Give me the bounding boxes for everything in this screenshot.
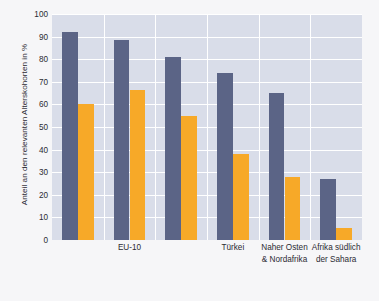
bar-series-1-cat-3 — [217, 73, 233, 240]
y-axis-tick-label: 90 — [18, 32, 48, 41]
bar-series-2-cat-4 — [285, 177, 301, 240]
x-axis-category-label: EU-10 — [118, 242, 141, 254]
x-axis-category-label: Naher Osten& Nordafrika — [261, 242, 307, 265]
y-axis-tick-label: 40 — [18, 145, 48, 154]
bars-layer — [52, 14, 362, 240]
y-axis-tick-label: 10 — [18, 213, 48, 222]
y-axis-tick-label: 20 — [18, 190, 48, 199]
y-axis-tick-label: 100 — [18, 10, 48, 19]
x-axis-label-line-1: Türkei — [221, 243, 244, 252]
x-axis-label-line-1: Afrika südlich — [312, 243, 361, 252]
y-axis-tick-labels: 0102030405060708090100 — [18, 0, 48, 301]
x-axis-category-labels: EU-10TürkeiNaher Osten& NordafrikaAfrika… — [52, 242, 362, 282]
bar-series-2-cat-2 — [181, 116, 197, 240]
y-axis-tick-label: 70 — [18, 77, 48, 86]
bar-series-1-cat-0 — [62, 32, 78, 240]
x-axis-label-line-1: EU-10 — [118, 243, 141, 252]
plot-area — [52, 14, 362, 240]
y-axis-tick-label: 0 — [18, 236, 48, 245]
y-axis-tick-label: 50 — [18, 123, 48, 132]
x-axis-category-label: Türkei — [221, 242, 244, 254]
bar-series-1-cat-2 — [165, 57, 181, 240]
bar-series-2-cat-3 — [233, 154, 249, 240]
y-axis-tick-label: 30 — [18, 168, 48, 177]
x-axis-category-label: Afrika südlichder Sahara — [312, 242, 361, 265]
bar-series-2-cat-5 — [336, 228, 352, 240]
y-axis-tick-label: 80 — [18, 55, 48, 64]
bar-series-2-cat-1 — [130, 90, 146, 240]
x-axis-label-line-2: & Nordafrika — [261, 254, 307, 266]
x-axis-label-line-1: Naher Osten — [261, 243, 307, 252]
y-axis-tick-label: 60 — [18, 100, 48, 109]
x-axis-label-line-2: der Sahara — [312, 254, 361, 266]
bar-series-1-cat-1 — [114, 40, 130, 240]
bar-series-2-cat-0 — [78, 104, 94, 240]
bar-series-1-cat-5 — [320, 179, 336, 240]
bar-chart-figure: Anteil an den relevanten Alterskohorten … — [0, 0, 379, 301]
bar-series-1-cat-4 — [269, 93, 285, 240]
